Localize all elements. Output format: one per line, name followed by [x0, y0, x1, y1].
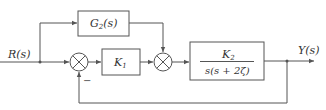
input-label: R(s)	[7, 48, 31, 61]
block-plant: K2 s(s + 2ζ)	[190, 42, 264, 80]
block-g2-label: G2(s)	[90, 17, 118, 31]
output-label: Y(s)	[298, 44, 320, 57]
summing-junction-2	[154, 53, 172, 71]
block-g2: G2(s)	[78, 11, 129, 36]
block-plant-denominator: s(s + 2ζ)	[205, 65, 250, 76]
feedforward-line-in	[40, 23, 77, 62]
block-diagram: R(s) G2(s) − K1 K2 s(s + 2ζ)	[0, 0, 326, 110]
summing-junction-1: −	[70, 53, 91, 86]
feedback-minus-sign: −	[83, 75, 91, 86]
feedforward-line-out	[129, 23, 163, 52]
input-signal: R(s)	[0, 48, 69, 64]
block-k1: K1	[102, 49, 140, 75]
